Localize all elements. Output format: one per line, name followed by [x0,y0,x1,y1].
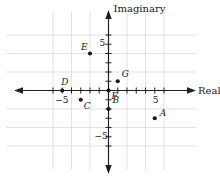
real-axis-arrow-left [14,87,23,93]
real-axis-label: Real [198,86,220,96]
data-point-label-e: E [81,43,88,52]
real-axis-tick-label: −5 [55,96,68,105]
data-point-label-c: C [84,102,91,111]
data-point-marker-d [60,88,64,92]
imaginary-axis-arrow-up [105,10,111,19]
imaginary-axis-arrow-down [105,165,111,174]
imaginary-axis-tick-label: 5 [100,39,106,48]
argand-diagram-canvas [0,0,220,177]
data-point-marker-g [116,79,120,83]
data-point-label-d: D [61,78,68,87]
imaginary-axis-tick-label: −5 [95,132,108,141]
data-point-marker-c [79,98,83,102]
data-point-label-a: A [160,109,167,118]
data-point-marker-b [106,107,110,111]
data-point-marker-a [153,116,157,120]
data-point-label-f: F [112,92,118,101]
data-point-marker-e [88,51,92,55]
imaginary-axis-label: Imaginary [114,4,166,14]
real-axis-tick-label: 5 [153,96,159,105]
complex-plane-figure: ABCDEFG −555−5 Real Imaginary [0,0,220,177]
data-point-label-g: G [122,70,129,79]
data-point-marker-f [106,88,110,92]
real-axis-arrow-right [187,87,196,93]
